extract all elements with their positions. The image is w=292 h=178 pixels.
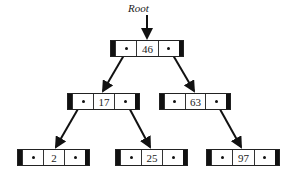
node-cap-right xyxy=(85,150,89,165)
null-dot-icon xyxy=(130,156,133,159)
right-pointer-cell xyxy=(254,150,275,165)
tree-node-25: 25 xyxy=(115,149,188,166)
node-cap-right xyxy=(179,41,183,56)
pointer-dot-icon xyxy=(82,100,85,103)
tree-node-17: 17 xyxy=(67,93,140,110)
null-dot-icon xyxy=(74,156,77,159)
tree-node-46: 46 xyxy=(110,40,184,57)
tree-node-2: 2 xyxy=(17,149,90,166)
left-pointer-cell xyxy=(72,94,93,109)
node-cap-right xyxy=(183,150,187,165)
node-value: 25 xyxy=(141,150,162,165)
node-value: 2 xyxy=(43,150,64,165)
node-cap-right xyxy=(275,150,279,165)
left-pointer-cell xyxy=(164,94,185,109)
right-pointer-cell xyxy=(64,150,85,165)
null-dot-icon xyxy=(173,100,176,103)
node-value: 17 xyxy=(93,94,114,109)
tree-node-63: 63 xyxy=(159,93,231,110)
right-pointer-cell xyxy=(114,94,135,109)
pointer-dot-icon xyxy=(125,47,128,50)
null-dot-icon xyxy=(263,156,266,159)
node-value: 46 xyxy=(136,41,157,56)
pointer-dot-icon xyxy=(124,100,127,103)
left-pointer-cell xyxy=(211,150,232,165)
node-cap-right xyxy=(226,94,230,109)
null-dot-icon xyxy=(172,156,175,159)
null-dot-icon xyxy=(221,156,224,159)
pointer-dot-icon xyxy=(167,47,170,50)
right-pointer-cell xyxy=(158,41,179,56)
right-pointer-cell xyxy=(205,94,226,109)
node-cap-right xyxy=(135,94,139,109)
left-pointer-cell xyxy=(22,150,43,165)
pointer-dot-icon xyxy=(215,100,218,103)
null-dot-icon xyxy=(32,156,35,159)
node-value: 97 xyxy=(232,150,253,165)
node-value: 63 xyxy=(185,94,206,109)
left-pointer-cell xyxy=(120,150,141,165)
tree-node-97: 97 xyxy=(206,149,280,166)
left-pointer-cell xyxy=(115,41,136,56)
right-pointer-cell xyxy=(162,150,183,165)
